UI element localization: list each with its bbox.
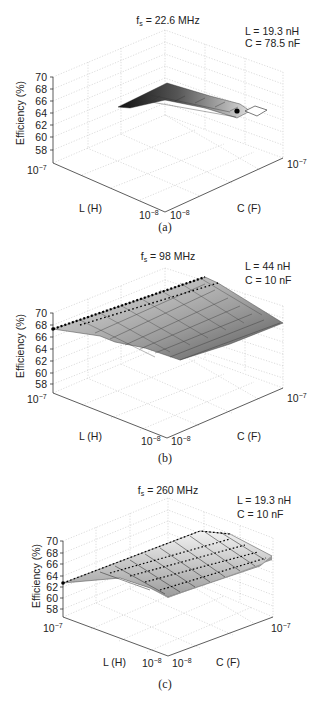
panel-a-C-tick-high: 10−7 bbox=[287, 158, 307, 170]
svg-text:62: 62 bbox=[35, 119, 47, 131]
svg-text:64: 64 bbox=[35, 343, 47, 355]
panel-b-C-tick-high: 10−7 bbox=[287, 392, 307, 404]
panel-c-title: fs = 260 MHz bbox=[138, 484, 198, 497]
panel-a-opt-L: L = 19.3 nH bbox=[245, 25, 299, 37]
panel-b-opt-C: C = 10 nF bbox=[245, 274, 291, 286]
svg-text:58: 58 bbox=[35, 378, 47, 390]
panel-b-title: fs = 98 MHz bbox=[141, 250, 196, 263]
panel-c-L-tick-low: 10−8 bbox=[142, 657, 162, 669]
panel-c-surface bbox=[61, 531, 272, 598]
panel-b-zlabel: Efficiency (%) bbox=[14, 314, 26, 378]
panel-c-C-tick-high: 10−7 bbox=[271, 622, 291, 634]
svg-text:60: 60 bbox=[35, 131, 47, 143]
svg-text:66: 66 bbox=[35, 331, 47, 343]
svg-text:70: 70 bbox=[35, 307, 47, 319]
panel-a-L-tick-low: 10−8 bbox=[139, 209, 159, 221]
panel-c-opt-C: C = 10 nF bbox=[237, 508, 283, 520]
panel-b-opt-L: L = 44 nH bbox=[245, 260, 290, 272]
figure-canvas: fs = 22.6 MHz L = 19.3 nH C = 78.5 nF 70… bbox=[0, 0, 323, 701]
svg-text:68: 68 bbox=[35, 319, 47, 331]
svg-text:66: 66 bbox=[35, 95, 47, 107]
svg-text:68: 68 bbox=[35, 83, 47, 95]
panel-b-L-tick-high: 10−7 bbox=[27, 393, 47, 405]
panel-a-zlabel: Efficiency (%) bbox=[14, 81, 26, 145]
panel-c-C-tick-low: 10−8 bbox=[172, 657, 192, 669]
panel-b-C-tick-low: 10−8 bbox=[171, 435, 191, 447]
panel-b-caption: (b) bbox=[158, 451, 172, 465]
panel-b-z-ticks: 70 68 66 64 62 60 58 bbox=[35, 307, 47, 390]
panel-c-caption: (c) bbox=[158, 677, 171, 691]
panel-a-caption: (a) bbox=[158, 220, 171, 234]
panel-a-ylabel: C (F) bbox=[237, 202, 261, 214]
panel-a-L-tick-high: 10−7 bbox=[27, 164, 47, 176]
panel-a-opt-C: C = 78.5 nF bbox=[245, 37, 300, 49]
panel-c-ylabel: C (F) bbox=[216, 656, 240, 668]
svg-text:62: 62 bbox=[35, 355, 47, 367]
panel-b-xlabel: L (H) bbox=[79, 430, 102, 442]
svg-text:58: 58 bbox=[35, 144, 47, 156]
panel-a-surface bbox=[118, 83, 267, 118]
panel-c: fs = 260 MHz L = 19.3 nH C = 10 nF 70 68… bbox=[30, 484, 291, 691]
svg-text:70: 70 bbox=[35, 71, 47, 83]
svg-text:64: 64 bbox=[35, 107, 47, 119]
panel-c-xlabel: L (H) bbox=[103, 656, 126, 668]
svg-text:66: 66 bbox=[46, 558, 58, 570]
panel-b-ylabel: C (F) bbox=[237, 430, 261, 442]
panel-b-surface bbox=[51, 277, 283, 360]
panel-c-z-ticks: 70 68 66 64 62 60 58 bbox=[46, 535, 58, 615]
panel-a: fs = 22.6 MHz L = 19.3 nH C = 78.5 nF 70… bbox=[14, 14, 307, 234]
panel-a-title: fs = 22.6 MHz bbox=[136, 14, 199, 27]
svg-text:70: 70 bbox=[46, 535, 58, 547]
panel-c-L-tick-high: 10−7 bbox=[43, 622, 63, 634]
panel-a-xlabel: L (H) bbox=[79, 202, 102, 214]
panel-a-grid bbox=[53, 30, 283, 200]
panel-a-z-ticks: 70 68 66 64 62 60 58 bbox=[35, 71, 47, 156]
panel-c-opt-L: L = 19.3 nH bbox=[237, 494, 291, 506]
svg-text:58: 58 bbox=[46, 603, 58, 615]
panel-b-L-tick-low: 10−8 bbox=[141, 435, 161, 447]
panel-b: fs = 98 MHz L = 44 nH C = 10 nF 70 68 66… bbox=[14, 250, 307, 465]
panel-c-zlabel: Efficiency (%) bbox=[30, 544, 42, 608]
panel-a-C-tick-low: 10−8 bbox=[170, 209, 190, 221]
